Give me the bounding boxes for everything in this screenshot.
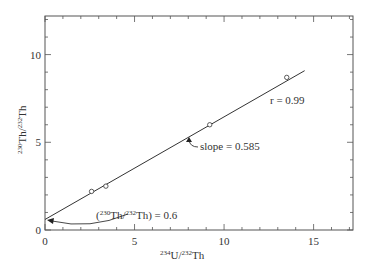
regression-line bbox=[45, 71, 305, 220]
data-point bbox=[104, 184, 108, 188]
axis-ticks bbox=[45, 16, 353, 230]
data-point bbox=[285, 75, 289, 79]
y-axis-label: 230Th/232Th bbox=[16, 105, 28, 154]
y-tick-label: 10 bbox=[30, 49, 42, 61]
data-point bbox=[208, 123, 212, 127]
x-tick-label: 10 bbox=[219, 235, 231, 247]
isochron-chart: 0510150510 r = 0.99 slope = 0.585 (230Th… bbox=[0, 0, 367, 271]
y-tick-label: 0 bbox=[36, 224, 42, 236]
x-tick-label: 5 bbox=[132, 235, 138, 247]
intercept-annotation: (230Th/232Th) = 0.6 bbox=[96, 209, 178, 222]
data-points bbox=[89, 75, 289, 193]
data-point bbox=[89, 189, 93, 193]
x-axis-label: 234U/232Th bbox=[160, 249, 205, 261]
x-tick-label: 15 bbox=[308, 235, 320, 247]
intercept-arrowhead-icon bbox=[47, 218, 54, 224]
plot-frame bbox=[45, 16, 353, 230]
y-tick-label: 5 bbox=[36, 136, 42, 148]
x-tick-label: 0 bbox=[42, 235, 48, 247]
r-annotation: r = 0.99 bbox=[270, 94, 305, 106]
slope-annotation: slope = 0.585 bbox=[200, 140, 260, 152]
